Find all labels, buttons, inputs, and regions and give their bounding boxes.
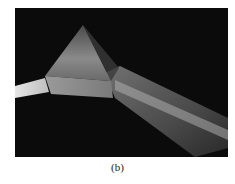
prism-render-image bbox=[15, 8, 228, 157]
incoming-beam bbox=[15, 78, 49, 98]
prism-illustration bbox=[15, 8, 228, 157]
figure-caption: (b) bbox=[0, 161, 235, 173]
